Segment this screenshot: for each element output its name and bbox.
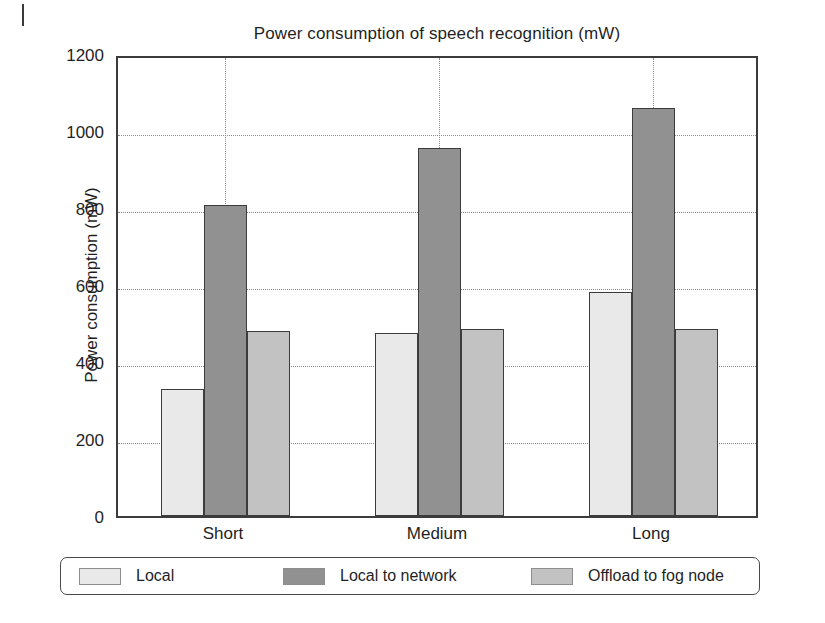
bars-layer	[118, 58, 756, 516]
y-axis-tick-label: 200	[44, 431, 104, 451]
legend-item-offload-to-fog-node[interactable]: Offload to fog node	[531, 558, 724, 594]
bar-chart-figure: Power consumption of speech recognition …	[0, 0, 825, 623]
legend-swatch-icon	[283, 568, 325, 585]
bar-medium-local-to-network	[418, 148, 461, 516]
legend-item-local[interactable]: Local	[79, 558, 174, 594]
bar-long-local-to-network	[632, 108, 675, 516]
chart-title: Power consumption of speech recognition …	[116, 24, 758, 44]
y-axis-tick-label: 0	[44, 508, 104, 528]
y-axis-tick-label: 600	[44, 277, 104, 297]
bar-medium-offload-to-fog-node	[461, 329, 504, 516]
legend-label: Local to network	[340, 567, 457, 585]
legend-swatch-icon	[79, 568, 121, 585]
bar-long-offload-to-fog-node	[675, 329, 718, 516]
y-axis-tick-label: 1200	[44, 46, 104, 66]
legend-swatch-icon	[531, 568, 573, 585]
y-axis-tick-label: 1000	[44, 123, 104, 143]
y-axis-tick-label: 800	[44, 200, 104, 220]
legend-label: Offload to fog node	[588, 567, 724, 585]
x-axis-tick-label: Short	[203, 524, 244, 544]
x-axis-tick-label: Long	[632, 524, 670, 544]
bar-short-local-to-network	[204, 205, 247, 516]
legend-item-local-to-network[interactable]: Local to network	[283, 558, 457, 594]
legend-label: Local	[136, 567, 174, 585]
bar-medium-local	[375, 333, 418, 516]
bar-short-local	[161, 389, 204, 516]
bar-short-offload-to-fog-node	[247, 331, 290, 516]
chart-legend: LocalLocal to networkOffload to fog node	[60, 557, 760, 595]
plot-area	[116, 56, 758, 518]
bar-long-local	[589, 292, 632, 516]
y-axis-tick-label: 400	[44, 354, 104, 374]
x-axis-tick-label: Medium	[407, 524, 467, 544]
